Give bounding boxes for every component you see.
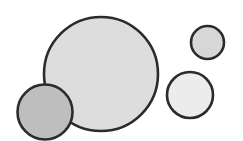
- dark-circle: [18, 85, 73, 140]
- diagram-canvas: [0, 0, 243, 141]
- circles-diagram: [0, 0, 243, 141]
- top-right-circle: [191, 26, 224, 59]
- middle-right-circle: [167, 72, 213, 118]
